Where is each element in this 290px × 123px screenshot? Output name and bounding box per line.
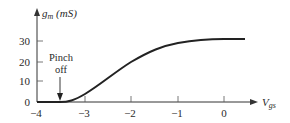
y-tick-label: 20 [19,56,31,68]
y-axis-arrow-icon [34,8,40,16]
x-tick-label: 0 [221,107,227,119]
y-axis-title: gm (mS) [42,7,77,21]
x-tick-label: −4 [30,107,42,119]
x-tick-label: −3 [78,107,90,119]
arrow-down-icon [57,93,63,101]
pinch-off-label: Pinch [49,52,74,63]
x-ticks [85,96,224,102]
x-tick-label: −1 [171,107,183,119]
gm-vs-vgs-chart: 0 10 20 30 −4 −3 −2 −1 0 gm (mS) Vgs Pin… [0,0,290,123]
y-tick-label: 10 [19,75,31,87]
pinch-off-label: off [55,64,68,75]
x-tick-label: −2 [124,107,136,119]
x-axis-title: Vgs [262,96,276,110]
x-axis-arrow-icon [250,99,258,105]
y-ticks [37,41,43,81]
gm-curve [37,39,245,102]
y-tick-label: 30 [19,35,31,47]
